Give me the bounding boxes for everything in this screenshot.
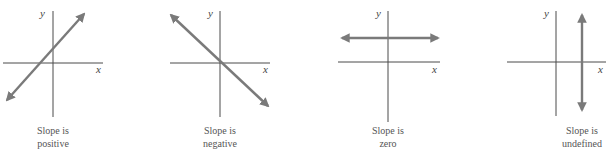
caption-line1: Slope is <box>372 125 404 136</box>
y-axis-label: y <box>543 7 549 19</box>
panel-negative-slope: y x Slope is negative <box>170 7 270 149</box>
y-axis-label: y <box>39 7 45 19</box>
caption-line2: negative <box>203 138 237 149</box>
caption-line2: zero <box>379 138 396 149</box>
x-axis-label: x <box>262 63 268 75</box>
x-axis-label: x <box>431 63 437 75</box>
x-axis-label: x <box>597 63 603 75</box>
y-axis-label: y <box>375 7 381 19</box>
caption-line1: Slope is <box>37 125 69 136</box>
positive-slope-line <box>7 14 84 100</box>
y-axis-label: y <box>207 7 213 19</box>
panel-undefined-slope: y x Slope is undefined <box>507 7 606 149</box>
panel-zero-slope: y x Slope is zero <box>338 7 440 149</box>
caption-line1: Slope is <box>566 125 598 136</box>
caption-line2: undefined <box>562 138 602 149</box>
slope-diagrams: y x Slope is positive y x Slope is negat… <box>0 0 606 154</box>
caption-line2: positive <box>37 138 69 149</box>
panel-positive-slope: y x Slope is positive <box>3 7 103 149</box>
caption-line1: Slope is <box>204 125 236 136</box>
x-axis-label: x <box>95 63 101 75</box>
